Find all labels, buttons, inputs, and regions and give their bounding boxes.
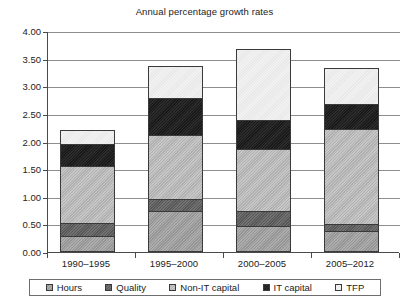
y-tick-mark <box>43 170 48 171</box>
bar-segment-non-it-capital[interactable] <box>237 150 290 212</box>
chart-legend: HoursQualityNon-IT capitalIT capitalTFP <box>29 279 381 296</box>
bar-2005–2012[interactable] <box>324 68 379 252</box>
legend-item-quality[interactable]: Quality <box>105 282 146 293</box>
y-tick-label: 0.50 <box>0 219 41 230</box>
bar-segment-tfp[interactable] <box>325 69 378 105</box>
bar-segment-it-capital[interactable] <box>61 145 114 167</box>
bar-segment-tfp[interactable] <box>149 67 202 99</box>
y-tick-mark <box>43 115 48 116</box>
y-tick-mark <box>43 225 48 226</box>
gridline <box>48 32 400 33</box>
y-tick-label: 4.00 <box>0 26 41 37</box>
bar-segment-quality[interactable] <box>237 212 290 227</box>
x-tick-label: 1990–1995 <box>36 258 136 269</box>
legend-item-non-it-capital[interactable]: Non-IT capital <box>169 282 239 293</box>
chart-title: Annual percentage growth rates <box>0 6 409 17</box>
legend-swatch-icon <box>263 284 270 291</box>
y-tick-label: 3.00 <box>0 81 41 92</box>
legend-label: IT capital <box>274 282 312 293</box>
bar-1990–1995[interactable] <box>60 130 115 252</box>
y-tick-label: 0.00 <box>0 247 41 258</box>
y-tick-label: 2.00 <box>0 137 41 148</box>
legend-item-tfp[interactable]: TFP <box>335 282 364 293</box>
y-tick-mark <box>43 198 48 199</box>
legend-swatch-icon <box>169 284 176 291</box>
gridline <box>48 60 400 61</box>
bar-segment-non-it-capital[interactable] <box>149 136 202 200</box>
bar-segment-it-capital[interactable] <box>325 105 378 130</box>
legend-swatch-icon <box>46 284 53 291</box>
legend-label: Non-IT capital <box>180 282 239 293</box>
legend-label: Hours <box>57 282 82 293</box>
x-tick-label: 2005–2012 <box>300 258 400 269</box>
x-tick-label: 1995–2000 <box>124 258 224 269</box>
plot-area <box>47 32 399 253</box>
bar-segment-it-capital[interactable] <box>237 121 290 150</box>
bar-segment-non-it-capital[interactable] <box>325 130 378 225</box>
y-tick-label: 3.50 <box>0 54 41 65</box>
x-tick-mark <box>399 253 400 258</box>
bar-segment-non-it-capital[interactable] <box>61 167 114 224</box>
legend-label: Quality <box>116 282 146 293</box>
legend-swatch-icon <box>105 284 112 291</box>
bar-segment-hours[interactable] <box>325 232 378 251</box>
y-tick-label: 1.50 <box>0 164 41 175</box>
y-tick-mark <box>43 32 48 33</box>
bar-1995–2000[interactable] <box>148 66 203 252</box>
y-tick-mark <box>43 60 48 61</box>
bar-segment-hours[interactable] <box>61 237 114 251</box>
y-tick-label: 1.00 <box>0 192 41 203</box>
bar-segment-tfp[interactable] <box>237 50 290 121</box>
legend-item-it-capital[interactable]: IT capital <box>263 282 312 293</box>
y-tick-label: 2.50 <box>0 109 41 120</box>
x-tick-label: 2000–2005 <box>212 258 312 269</box>
legend-item-hours[interactable]: Hours <box>46 282 82 293</box>
bar-segment-it-capital[interactable] <box>149 99 202 136</box>
bar-segment-quality[interactable] <box>61 224 114 238</box>
bar-segment-hours[interactable] <box>149 212 202 251</box>
legend-swatch-icon <box>335 284 342 291</box>
chart-container: Annual percentage growth rates HoursQual… <box>0 0 409 302</box>
y-tick-mark <box>43 87 48 88</box>
y-tick-mark <box>43 143 48 144</box>
bar-2000–2005[interactable] <box>236 49 291 252</box>
bar-segment-tfp[interactable] <box>61 131 114 145</box>
bar-segment-quality[interactable] <box>149 200 202 212</box>
legend-label: TFP <box>346 282 364 293</box>
bar-segment-quality[interactable] <box>325 225 378 232</box>
bar-segment-hours[interactable] <box>237 227 290 251</box>
